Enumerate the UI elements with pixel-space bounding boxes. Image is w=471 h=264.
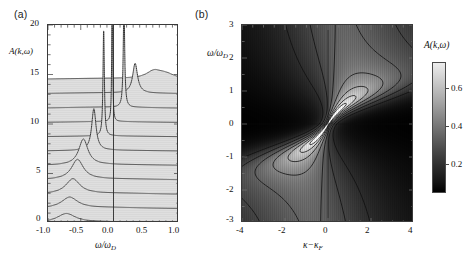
panel-b-xtick-2: 2 bbox=[365, 225, 370, 235]
colorbar-tick-mark-02 bbox=[446, 164, 449, 165]
colorbar-label: A(k,ω) bbox=[424, 40, 449, 50]
panel-a-svg bbox=[48, 25, 178, 222]
panel-a-ytick-20: 20 bbox=[30, 18, 39, 28]
panel-b-xtick-4: 4 bbox=[408, 225, 413, 235]
panel-a-plot-area bbox=[47, 24, 178, 222]
colorbar-tick-04: 0.4 bbox=[451, 121, 462, 131]
panel-a-xtick-05: 0.5 bbox=[136, 225, 147, 235]
panel-b-xtick-neg4: -4 bbox=[236, 225, 244, 235]
panel-b-ytick-2: 2 bbox=[229, 52, 234, 62]
panel-a-xlabel-main: ω/ω bbox=[95, 240, 111, 250]
panel-a-ytick-0: 0 bbox=[36, 213, 41, 223]
panel-b-plot-area bbox=[241, 24, 413, 222]
panel-b-ytick-neg2: -2 bbox=[226, 184, 234, 194]
panel-b-tag: (b) bbox=[195, 8, 208, 20]
panel-a-ytick-5: 5 bbox=[36, 165, 41, 175]
panel-a-xlabel: ω/ωD bbox=[95, 240, 116, 251]
colorbar-tick-02: 0.2 bbox=[451, 159, 462, 169]
panel-b-ylabel-main: ω/ω bbox=[207, 48, 223, 58]
panel-b-xtick-neg2: -2 bbox=[278, 225, 286, 235]
panel-b-ytick-1: 1 bbox=[229, 85, 234, 95]
panel-a-xtick-0: 0.0 bbox=[102, 225, 113, 235]
panel-a-tag: (a) bbox=[14, 8, 27, 20]
panel-b-svg bbox=[242, 25, 413, 222]
panel-a-ytick-15: 15 bbox=[30, 67, 39, 77]
panel-a-ylabel-text: A(k,ω) bbox=[9, 46, 33, 56]
panel-b-xlabel-sub: F bbox=[319, 244, 323, 251]
panel-b-ytick-neg3: -3 bbox=[226, 214, 234, 224]
colorbar-tick-mark-04 bbox=[446, 126, 449, 127]
panel-b-xlabel: κ−κF bbox=[303, 240, 323, 251]
colorbar-tick-mark-06 bbox=[446, 88, 449, 89]
panel-b-ytick-neg1: -1 bbox=[226, 151, 234, 161]
panel-b-ytick-3: 3 bbox=[229, 19, 234, 29]
panel-a-ytick-10: 10 bbox=[30, 116, 39, 126]
panel-b-ylabel-sub: D bbox=[223, 52, 228, 59]
panel-b-xtick-0: 0 bbox=[323, 225, 328, 235]
panel-a-xlabel-sub: D bbox=[111, 244, 116, 251]
panel-a-xtick-neg1: -1.0 bbox=[36, 225, 50, 235]
colorbar-tick-06: 0.6 bbox=[451, 83, 462, 93]
panel-a-xtick-neg05: -0.5 bbox=[69, 225, 83, 235]
panel-b-xlabel-main: κ−κ bbox=[303, 240, 319, 250]
panel-b-ytick-0: 0 bbox=[229, 118, 234, 128]
panel-a-curves bbox=[48, 25, 178, 222]
panel-a-xtick-1: 1.0 bbox=[168, 225, 179, 235]
figure-root: (a) A(k,ω) 20 15 10 5 0 -1.0 -0.5 0.0 0.… bbox=[0, 0, 471, 264]
colorbar bbox=[432, 62, 446, 193]
panel-b-ylabel: ω/ωD bbox=[207, 48, 228, 59]
panel-a-ylabel: A(k,ω) bbox=[9, 46, 33, 56]
